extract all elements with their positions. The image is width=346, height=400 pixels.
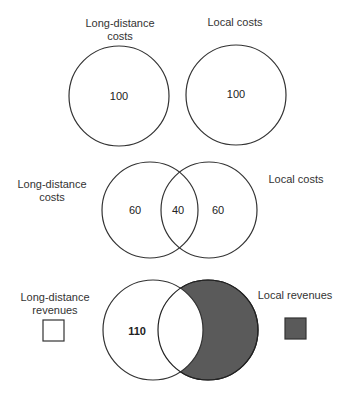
revenues-value: 110 bbox=[128, 325, 146, 337]
legend-swatch-long-distance bbox=[43, 320, 64, 341]
panel-separate-costs: Long-distance costs Local costs 100 100 bbox=[69, 16, 286, 146]
local-costs-label: Local costs bbox=[207, 16, 263, 28]
local-only-value: 60 bbox=[212, 204, 224, 216]
long-distance-costs-label-line2: costs bbox=[107, 30, 133, 42]
long-distance-revenues-circle bbox=[103, 280, 203, 380]
legend-long-distance-label-line1: Long-distance bbox=[20, 291, 89, 303]
legend-long-distance-label-line2: revenues bbox=[32, 304, 78, 316]
panel-revenues: Long-distance revenues Local revenues 11… bbox=[20, 280, 332, 380]
panel-shared-costs: Long-distance costs Local costs 60 40 60 bbox=[17, 162, 324, 258]
venn-diagram: Long-distance costs Local costs 100 100 … bbox=[0, 0, 346, 400]
overlap-value: 40 bbox=[172, 204, 184, 216]
long-distance-costs-label-line1: Long-distance bbox=[85, 17, 154, 29]
legend-swatch-local bbox=[285, 318, 306, 339]
long-distance-costs-value: 100 bbox=[110, 90, 128, 102]
long-distance-only-value: 60 bbox=[129, 204, 141, 216]
shared-long-distance-label-line2: costs bbox=[39, 191, 65, 203]
legend-local-label: Local revenues bbox=[258, 289, 333, 301]
shared-local-costs-label: Local costs bbox=[268, 173, 324, 185]
shared-long-distance-label-line1: Long-distance bbox=[17, 178, 86, 190]
local-costs-value: 100 bbox=[227, 88, 245, 100]
